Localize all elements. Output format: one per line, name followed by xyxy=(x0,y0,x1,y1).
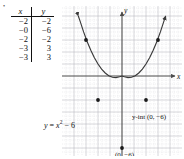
vertex-annotation: (0, −6) xyxy=(115,151,135,156)
equation-caption: y = x2 − 6 xyxy=(44,119,75,130)
data-point-vertex xyxy=(120,146,124,150)
data-point xyxy=(96,98,100,102)
equation-exponent: 2 xyxy=(60,119,63,125)
equation-tail: − 6 xyxy=(64,121,75,130)
graph-panel: x y y-int (0, −6) (0, −6) xyxy=(62,6,182,156)
cell-x: −3 xyxy=(11,53,32,62)
cell-y: 3 xyxy=(32,53,55,62)
data-point xyxy=(156,38,160,42)
table-row: −3 3 xyxy=(11,53,54,62)
equation-equals: = xyxy=(50,121,55,130)
data-point xyxy=(144,98,148,102)
equation-lhs: y xyxy=(44,121,48,130)
y-intercept-annotation: y-int (0, −6) xyxy=(132,113,167,121)
y-axis-label: y xyxy=(123,6,128,15)
x-axis-label: x xyxy=(176,72,181,81)
corner-bullet-marker: • xyxy=(3,5,6,8)
value-table: x y −2 −2 −0 −6 −2 −2 −3 3 −3 3 xyxy=(11,7,54,62)
parabola-plot: x y y-int (0, −6) (0, −6) xyxy=(62,6,182,156)
data-point xyxy=(84,38,88,42)
figure-root: • x y −2 −2 −0 −6 −2 −2 −3 3 xyxy=(0,0,184,159)
